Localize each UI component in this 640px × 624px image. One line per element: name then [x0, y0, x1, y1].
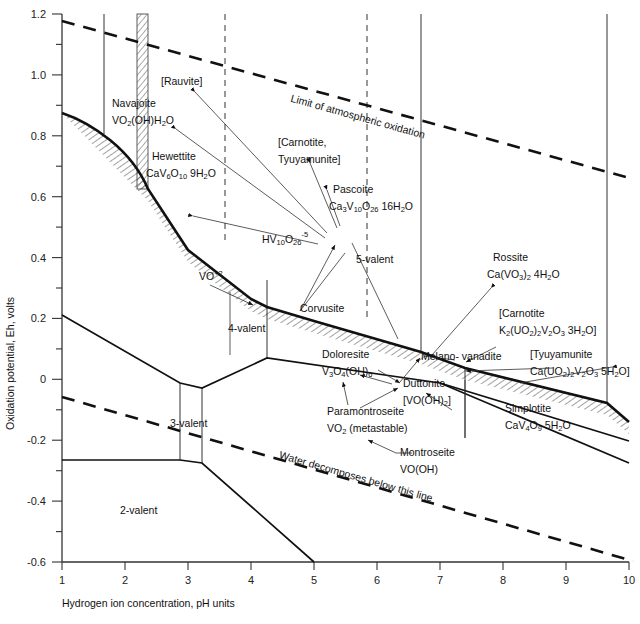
label-carnotite-name: [Carnotite: [499, 307, 545, 319]
arrow-paramontroseite-b: [343, 382, 348, 405]
label-rossite-name: Rossite: [493, 251, 528, 263]
label-duttonite-formula: [VO(OH)2]: [403, 394, 451, 408]
y-tick-1-0: 1.0: [31, 69, 46, 81]
label-5-valent: 5-valent: [356, 253, 393, 265]
label-2-valent: 2-valent: [120, 504, 157, 516]
x-tick-7: 7: [437, 574, 443, 586]
label-carnotite-tyuyamunite-2: Tyuyamunite]: [278, 153, 341, 165]
x-tick-3: 3: [185, 574, 191, 586]
label-navajoite-formula: VO2(OH)H2O: [112, 114, 174, 128]
x-tick-4: 4: [248, 574, 254, 586]
x-tick-5: 5: [311, 574, 317, 586]
x-tick-1: 1: [59, 574, 65, 586]
species-labels: Navajoite VO2(OH)H2O Hewettite CaV6O10 9…: [112, 75, 630, 516]
x-tick-2: 2: [122, 574, 128, 586]
y-tick-0-4: 0.4: [31, 252, 46, 264]
label-rauvite: [Rauvite]: [161, 75, 203, 87]
label-rossite-formula: Ca(VO3)2 4H2O: [487, 268, 560, 282]
y-tick-neg-0-4: -0.4: [27, 495, 46, 507]
label-duttonite-name: Duttonite: [403, 377, 445, 389]
y-tick-neg-0-6: -0.6: [27, 556, 46, 568]
label-tyuyamunite-formula: Ca(UO2)2V2O3 5H2O]: [530, 365, 630, 379]
arrow-carn-tyuy-top: [310, 163, 337, 228]
label-paramontroseite-formula: VO2 (metastable): [327, 422, 408, 436]
x-tick-10: 10: [623, 574, 635, 586]
boundary-3-2-lower: [62, 460, 314, 562]
y-axis-title: Oxidation potential, Eh, volts: [4, 297, 16, 430]
label-hewettite-name: Hewettite: [152, 150, 196, 162]
y-tick-0: 0: [40, 373, 46, 385]
eh-ph-diagram-figure: 1.2 1.0 0.8 0.6 0.4 0.2 0 -0.2 -0.4 -0.6…: [0, 0, 640, 624]
y-tick-0-6: 0.6: [31, 191, 46, 203]
label-hewettite-formula: CaV6O10 9H2O: [146, 167, 216, 181]
arrow-rossite: [432, 288, 491, 355]
label-carnotite-formula: K2(UO2)2V2O3 3H2O]: [499, 324, 596, 338]
y-tick-1-2: 1.2: [31, 8, 46, 20]
label-doloresite-name: Doloresite: [322, 348, 369, 360]
y-tick-0-8: 0.8: [31, 130, 46, 142]
diagram-canvas: 1.2 1.0 0.8 0.6 0.4 0.2 0 -0.2 -0.4 -0.6…: [0, 0, 640, 624]
label-simplotite-formula: CaV4O9 5H2O: [505, 419, 571, 433]
label-pascoite-name: Pascoite: [333, 183, 373, 195]
label-3-valent: 3-valent: [170, 417, 207, 429]
arrow-montroseite: [368, 440, 396, 453]
x-axis-title: Hydrogen ion concentration, pH units: [62, 597, 235, 609]
y-tick-neg-0-2: -0.2: [27, 434, 46, 446]
label-navajoite-name: Navajoite: [112, 97, 156, 109]
label-carnotite-tyuyamunite-1: [Carnotite,: [278, 136, 326, 148]
label-4-valent: 4-valent: [228, 322, 265, 334]
label-paramontroseite-name: Paramontroseite: [327, 405, 404, 417]
label-decavanadate: HV10O26-5: [262, 230, 308, 247]
label-tyuyamunite-name: [Tyuyamunite: [530, 348, 593, 360]
label-montroseite-formula: VO(OH): [400, 463, 438, 475]
x-tick-8: 8: [500, 574, 506, 586]
label-montroseite-name: Montroseite: [400, 446, 455, 458]
x-tick-6: 6: [374, 574, 380, 586]
x-tick-9: 9: [563, 574, 569, 586]
label-pascoite-formula: Ca3V10O26 16H2O: [329, 200, 413, 214]
label-melano-vanadite: Melano- vanadite: [421, 350, 502, 362]
label-simplotite-name: Simplotite: [505, 402, 551, 414]
label-corvusite: Corvusite: [300, 302, 345, 314]
y-tick-0-2: 0.2: [31, 312, 46, 324]
